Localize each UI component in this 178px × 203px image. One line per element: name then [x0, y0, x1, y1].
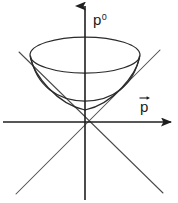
- momentum-axis-label-base: p: [140, 98, 148, 115]
- energy-axis-label-base: p: [93, 11, 101, 28]
- light-cone-drawing: [0, 0, 178, 203]
- energy-axis-label-superscript: 0: [102, 12, 107, 22]
- light-cone-generator-left: [31, 58, 86, 110]
- light-cone-generator-right: [85, 58, 140, 110]
- momentum-axis-label: p: [140, 98, 148, 114]
- momentum-axis-label-vector: p: [140, 98, 148, 114]
- energy-axis-label: p0: [93, 12, 106, 27]
- light-cone-figure: p0 p: [0, 0, 178, 203]
